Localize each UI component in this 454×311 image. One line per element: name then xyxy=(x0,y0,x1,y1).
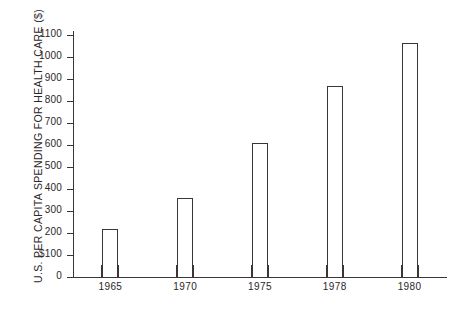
x-axis-tick xyxy=(343,265,344,277)
x-axis-tick-label: 1980 xyxy=(380,281,440,292)
y-axis-tick xyxy=(67,145,73,146)
y-axis-tick xyxy=(67,79,73,80)
y-axis-tick xyxy=(67,211,73,212)
x-axis-tick-label: 1978 xyxy=(305,281,365,292)
x-axis-tick-label: 1975 xyxy=(230,281,290,292)
bar-chart-figure: U.S. PER CAPITA SPENDING FOR HEALTH CARE… xyxy=(0,0,454,311)
y-axis-tick xyxy=(67,35,73,36)
y-axis-tick xyxy=(67,189,73,190)
y-axis-tick-label: 0 xyxy=(16,270,62,281)
x-axis-tick xyxy=(193,265,194,277)
y-axis-tick-label: 600 xyxy=(16,138,62,149)
y-axis-line xyxy=(73,31,74,278)
bar xyxy=(327,86,343,277)
x-axis-tick xyxy=(101,265,102,277)
y-axis-tick-label: 400 xyxy=(16,182,62,193)
y-axis-tick xyxy=(67,167,73,168)
x-axis-line xyxy=(73,277,447,278)
x-axis-tick xyxy=(401,265,402,277)
y-axis-tick xyxy=(67,233,73,234)
y-axis-tick-label: 800 xyxy=(16,94,62,105)
y-axis-tick xyxy=(67,123,73,124)
y-axis-tick xyxy=(67,277,73,278)
x-axis-tick-label: 1965 xyxy=(80,281,140,292)
y-axis-tick-label: 200 xyxy=(16,226,62,237)
y-axis-tick xyxy=(67,255,73,256)
y-axis-tick xyxy=(67,101,73,102)
bar xyxy=(177,198,193,277)
bar xyxy=(102,229,118,277)
x-axis-tick xyxy=(418,265,419,277)
y-axis-tick-label: 1000 xyxy=(16,50,62,61)
x-axis-tick xyxy=(251,265,252,277)
y-axis-tick-label: 500 xyxy=(16,160,62,171)
y-axis-tick-label: 900 xyxy=(16,72,62,83)
x-axis-tick xyxy=(118,265,119,277)
x-axis-tick-label: 1970 xyxy=(155,281,215,292)
y-axis-tick-label: 300 xyxy=(16,204,62,215)
x-axis-tick xyxy=(326,265,327,277)
bar xyxy=(402,43,418,277)
x-axis-tick xyxy=(268,265,269,277)
y-axis-tick xyxy=(67,57,73,58)
y-axis-tick-label: 700 xyxy=(16,116,62,127)
currency-symbol: $ xyxy=(39,248,45,259)
bar xyxy=(252,143,268,277)
y-axis-tick-label: 1100 xyxy=(16,28,62,39)
x-axis-tick xyxy=(176,265,177,277)
